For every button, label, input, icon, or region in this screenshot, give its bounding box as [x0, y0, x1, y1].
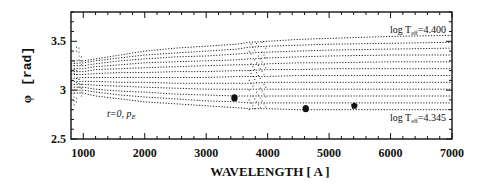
annotation-top-teff: log Teff=4.400	[390, 24, 446, 36]
scatter-dot	[78, 48, 79, 49]
scatter-dot	[265, 96, 266, 97]
phase-curve	[71, 87, 452, 96]
scatter-dot	[258, 65, 259, 66]
scatter-dot	[256, 82, 257, 83]
scatter-dot	[74, 96, 75, 97]
scatter-dot	[249, 80, 250, 81]
x-axis-title: WAVELENGTH [ A ]	[210, 164, 329, 179]
scatter-dot	[263, 64, 264, 65]
scatter-dot	[265, 67, 266, 68]
x-tick-label: 4000	[256, 146, 280, 160]
phase-wavelength-chart: 1000200030004000500060007000 2.533.5 WAV…	[0, 0, 489, 186]
phase-curves	[71, 35, 452, 110]
scatter-dot	[81, 60, 82, 61]
scatter-dot	[252, 76, 253, 77]
scatter-dot	[256, 101, 257, 102]
x-tick-label: 7000	[440, 146, 464, 160]
scatter-dot	[81, 95, 82, 96]
scatter-dot	[78, 83, 79, 84]
scatter-dot	[260, 97, 261, 98]
scatter-dot	[76, 70, 77, 71]
y-tick-label: 3.5	[51, 34, 66, 48]
scatter-dot	[262, 52, 263, 53]
phase-curve	[71, 76, 452, 79]
scatter-dot	[252, 105, 253, 106]
scatter-dot	[252, 95, 253, 96]
scatter-dot	[256, 92, 257, 93]
scatter-dot	[265, 48, 266, 49]
x-tick-label: 1000	[71, 146, 95, 160]
scatter-dot	[78, 79, 79, 80]
scatter-dot	[254, 59, 255, 60]
scatter-dot	[251, 63, 252, 64]
scatter-dot	[76, 51, 77, 52]
scatter-dot	[74, 104, 75, 105]
scatter-dot	[260, 58, 261, 59]
x-axis-tick-labels: 1000200030004000500060007000	[71, 146, 464, 160]
scatter-dot	[260, 88, 261, 89]
scatter-dot	[74, 61, 75, 62]
scatter-dot	[262, 61, 263, 62]
x-tick-label: 2000	[133, 146, 157, 160]
scatter-dot	[249, 51, 250, 52]
scatter-dot	[252, 47, 253, 48]
scatter-dot	[256, 43, 257, 44]
scatter-dot	[78, 87, 79, 88]
phase-curve	[71, 84, 452, 89]
phase-curve	[71, 81, 452, 83]
scatter-dot	[81, 64, 82, 65]
scatter-dot	[254, 79, 255, 80]
y-axis-unit: [rad]	[20, 47, 35, 86]
phase-curve	[71, 48, 452, 66]
x-tick-label: 3000	[194, 146, 218, 160]
scatter-dot	[78, 55, 79, 56]
scatter-dot	[263, 94, 264, 95]
scatter-dot	[76, 82, 77, 83]
phase-curve	[71, 35, 452, 60]
scatter-dot	[265, 106, 266, 107]
scatter-dot	[251, 83, 252, 84]
scatter-dot	[74, 93, 75, 94]
scatter-dot	[254, 98, 255, 99]
scatter-dot	[252, 66, 253, 67]
scatter-dot	[76, 78, 77, 79]
scatter-dot	[262, 42, 263, 43]
scatter-dot	[76, 97, 77, 98]
scatter-dot	[81, 92, 82, 93]
scatter-dot	[249, 90, 250, 91]
scatter-dot	[258, 46, 259, 47]
scatter-dot	[256, 72, 257, 73]
scatter-dot	[262, 91, 263, 92]
scatter-dot	[263, 54, 264, 55]
scatter-dot	[78, 59, 79, 60]
y-tick-label: 3	[60, 83, 66, 97]
phase-curve	[71, 42, 452, 64]
svg-text:φ [rad]: φ [rad]	[19, 47, 35, 103]
scatter-dot	[258, 75, 259, 76]
scatter-dot	[254, 69, 255, 70]
scatter-dot	[81, 84, 82, 85]
scatter-dot	[256, 62, 257, 63]
scatter-dot	[260, 107, 261, 108]
phase-curve	[71, 69, 452, 75]
scatter-dot	[254, 50, 255, 51]
x-tick-label: 5000	[317, 146, 341, 160]
scatter-dot	[263, 84, 264, 85]
scatter-dot	[258, 55, 259, 56]
scatter-dot	[254, 108, 255, 109]
scatter-dot	[76, 74, 77, 75]
annotation-model-params: t=0, pE	[107, 108, 137, 121]
scatter-dot	[81, 88, 82, 89]
scatter-dot	[265, 87, 266, 88]
scatter-dot	[249, 99, 250, 100]
scatter-dot	[251, 102, 252, 103]
y-axis-title: φ [rad]	[19, 47, 35, 103]
y-tick-label: 2.5	[51, 132, 66, 146]
circle-marker	[303, 105, 309, 112]
phase-curve	[71, 55, 452, 69]
scatter-dot	[74, 69, 75, 70]
scatter-dot	[262, 71, 263, 72]
scatter-dot	[262, 100, 263, 101]
scatter-dot	[251, 44, 252, 45]
scatter-dot	[260, 78, 261, 79]
